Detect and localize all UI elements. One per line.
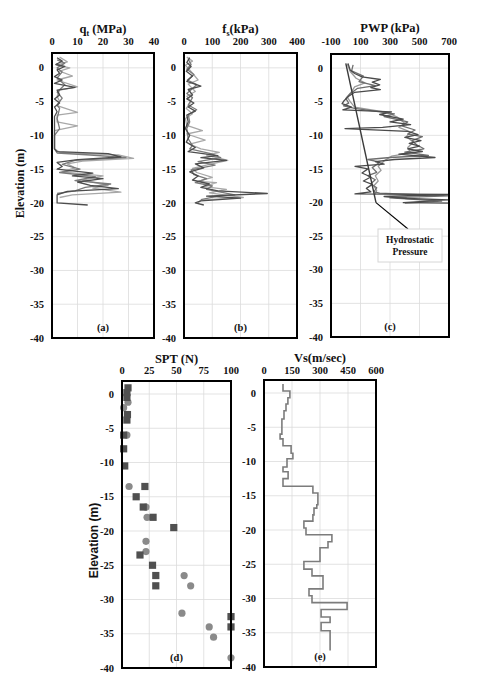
chart-title-main: SPT (N) <box>155 352 198 366</box>
y-tick-label: -25 <box>309 231 323 242</box>
data-point-circle <box>187 582 194 589</box>
data-point-square <box>149 514 156 521</box>
x-tick-label: 0 <box>261 365 266 376</box>
panel-label: (b) <box>234 322 247 334</box>
y-tick-label: -5 <box>105 423 114 434</box>
y-tick-label: -5 <box>247 422 256 433</box>
data-point-circle <box>181 572 188 579</box>
x-tick-label: 200 <box>233 36 249 47</box>
panel-label: (d) <box>170 652 183 664</box>
panel-label: (c) <box>384 321 396 333</box>
y-tick-label: -30 <box>162 265 176 276</box>
data-point-square <box>170 524 177 531</box>
x-tick-label: 20 <box>98 36 109 47</box>
chart-title-units: (kPa) <box>230 22 259 36</box>
y-tick-label: -20 <box>30 198 44 209</box>
x-tick-label: 100 <box>204 36 220 47</box>
chart-title: PWP (kPa) <box>360 21 419 35</box>
y-tick-label: -10 <box>309 130 323 141</box>
x-tick-label: 450 <box>340 365 356 376</box>
y-tick-label: -15 <box>100 491 114 502</box>
y-tick-label: -40 <box>309 332 323 343</box>
y-tick-label: -35 <box>100 628 114 639</box>
y-tick-label: 0 <box>318 63 323 74</box>
x-tick-label: -100 <box>321 36 340 47</box>
panel-label: (a) <box>97 322 110 334</box>
y-tick-label: -10 <box>162 130 176 141</box>
x-tick-label: 600 <box>368 365 384 376</box>
x-tick-label: 10 <box>72 36 83 47</box>
data-point-square <box>140 503 147 510</box>
x-tick-label: 100 <box>353 36 369 47</box>
annotation-text: Hydrostatic <box>386 235 434 245</box>
data-point-circle <box>210 634 217 641</box>
chart-title-units: (MPa) <box>89 22 126 36</box>
x-tick-label: 30 <box>123 36 134 47</box>
y-tick-label: -25 <box>162 231 176 242</box>
y-tick-label: 0 <box>251 388 256 399</box>
chart-title: SPT (N) <box>155 352 198 366</box>
x-tick-label: 25 <box>144 365 155 376</box>
y-tick-label: -10 <box>100 457 114 468</box>
y-tick-label: -40 <box>162 333 176 344</box>
data-point-square <box>136 551 143 558</box>
y-tick-label: -40 <box>100 663 114 674</box>
x-tick-label: 0 <box>119 365 124 376</box>
data-point-circle <box>142 538 149 545</box>
y-tick-label: -20 <box>242 525 256 536</box>
y-tick-label: -20 <box>309 197 323 208</box>
annotation-box <box>378 229 442 262</box>
y-tick-label: -30 <box>242 593 256 604</box>
y-tick-label: -15 <box>30 164 44 175</box>
data-point-square <box>123 416 130 423</box>
x-tick-label: 300 <box>382 36 398 47</box>
data-point-square <box>123 394 130 401</box>
y-tick-label: 0 <box>171 62 176 73</box>
y-tick-label: -30 <box>309 264 323 275</box>
y-tick-label: -5 <box>314 96 323 107</box>
y-tick-label: -25 <box>30 231 44 242</box>
y-tick-label: -15 <box>309 164 323 175</box>
y-tick-label: -25 <box>242 559 256 570</box>
panel-label: (e) <box>314 651 326 663</box>
y-tick-label: -5 <box>35 96 44 107</box>
y-tick-label: -10 <box>242 456 256 467</box>
y-tick-label: 0 <box>39 62 44 73</box>
data-point-square <box>133 493 140 500</box>
chart-title-main: Vs(m/sec) <box>294 351 346 365</box>
y-tick-label: -35 <box>30 299 44 310</box>
y-tick-label: -35 <box>162 299 176 310</box>
x-tick-label: 50 <box>171 365 182 376</box>
x-tick-label: 0 <box>49 36 54 47</box>
y-tick-label: -30 <box>30 265 44 276</box>
data-point-square <box>149 562 156 569</box>
y-tick-label: -15 <box>242 490 256 501</box>
chart-title-main: q <box>80 22 87 36</box>
chart-title: Vs(m/sec) <box>294 351 346 365</box>
x-tick-label: 700 <box>441 36 457 47</box>
data-point-square <box>152 582 159 589</box>
y-tick-label: -20 <box>100 526 114 537</box>
data-point-square <box>141 483 148 490</box>
x-tick-label: 40 <box>149 36 160 47</box>
y-tick-label: -10 <box>30 130 44 141</box>
x-tick-label: 400 <box>289 36 305 47</box>
x-tick-label: 150 <box>284 365 300 376</box>
y-tick-label: -35 <box>242 627 256 638</box>
data-point-square <box>152 572 159 579</box>
y-tick-label: -30 <box>100 594 114 605</box>
y-tick-label: -5 <box>167 96 176 107</box>
x-tick-label: 500 <box>412 36 428 47</box>
figure-background <box>0 0 479 689</box>
y-tick-label: -35 <box>309 298 323 309</box>
x-tick-label: 300 <box>312 365 328 376</box>
annotation-text: Pressure <box>392 247 427 257</box>
x-tick-label: 100 <box>223 365 239 376</box>
data-point-circle <box>206 623 213 630</box>
x-tick-label: 0 <box>181 36 186 47</box>
chart-title-main: PWP (kPa) <box>360 21 419 35</box>
x-tick-label: 300 <box>261 36 277 47</box>
y-tick-label: -40 <box>30 333 44 344</box>
x-tick-label: 75 <box>199 365 210 376</box>
y-axis-label: Elevation (m) <box>13 149 27 219</box>
